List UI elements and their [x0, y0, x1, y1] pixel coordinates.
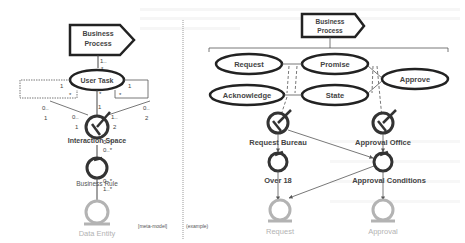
- process-bracket: [209, 48, 448, 52]
- example-process-label-2: Process: [317, 27, 343, 34]
- task-promise-label: Promise: [320, 60, 350, 69]
- task-acknowledge-label: Acknowledge: [223, 91, 271, 100]
- mult-rule-entity-0: 0..*: [103, 178, 113, 184]
- mult-inner-left-1: 1: [75, 124, 79, 130]
- mult-right-0: 0..: [143, 105, 150, 111]
- space-approval-office-icon: [373, 110, 396, 133]
- mult-task-left-star: *: [69, 92, 72, 98]
- space-left-link: [50, 101, 88, 115]
- task-request-label: Request: [234, 60, 264, 69]
- mult-left-0: 0..: [42, 105, 49, 111]
- meta-model-caption: [meta-model]: [138, 223, 168, 229]
- mult-space-rule-0a: 0..*: [103, 139, 113, 145]
- example-caption: (example): [186, 223, 209, 229]
- entity-request-icon: [268, 200, 292, 221]
- entity-approval-icon: [371, 200, 395, 221]
- business-rule-icon: [87, 158, 107, 178]
- mult-right-2: 2: [145, 115, 149, 121]
- mult-left-1: 1: [44, 115, 48, 121]
- task-state-label: State: [326, 91, 344, 100]
- mult-inner-right-2: 2: [113, 124, 117, 130]
- interaction-space-label: Interaction Space: [68, 137, 126, 145]
- mult-process-top: 1..: [100, 58, 107, 64]
- data-entity-label: Data Entity: [79, 229, 116, 238]
- mult-task-right-star: *: [119, 92, 122, 98]
- mult-task-bottom: *: [99, 91, 102, 97]
- mult-task-right-1: 1: [128, 83, 132, 89]
- entity-approval-label: Approval: [368, 227, 398, 236]
- user-task-label: User Task: [81, 77, 114, 84]
- mult-inner-left-0: 0..: [72, 114, 79, 120]
- rule-approval-conditions-icon: [374, 152, 392, 171]
- meta-model-panel: Business Process 1.. * User Task 1 * 1 *…: [20, 25, 168, 238]
- task-approve-label: Approve: [400, 75, 430, 84]
- meta-process-label-1: Business: [82, 30, 113, 37]
- interaction-space-icon: [86, 112, 110, 138]
- mult-rule-entity-1: 1..*: [103, 186, 113, 192]
- data-entity-icon: [84, 201, 110, 224]
- background-bleed-text: [140, 8, 460, 203]
- entity-request-label: Request: [266, 227, 295, 236]
- mult-space-top: 1: [98, 104, 102, 110]
- rule-approval-conditions-label: Approval Conditions: [352, 176, 426, 185]
- mult-inner-right-1: 1..: [111, 114, 118, 120]
- meta-process-label-2: Process: [84, 40, 111, 47]
- rule-over-18-icon: [269, 152, 287, 171]
- mult-task-left-1: 1: [60, 83, 64, 89]
- space-request-bureau-icon: [268, 110, 291, 133]
- example-process-label-1: Business: [316, 18, 345, 25]
- mult-space-rule-0b: 0..*: [103, 147, 113, 153]
- diagram-canvas: Business Process 1.. * User Task 1 * 1 *…: [0, 0, 465, 243]
